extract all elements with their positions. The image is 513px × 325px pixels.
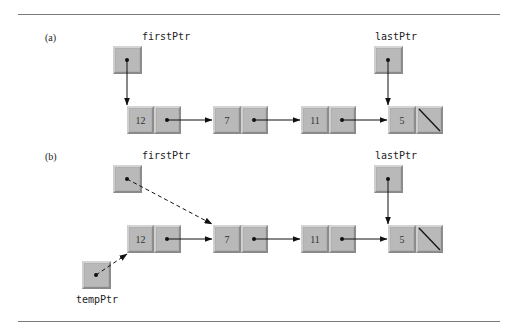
arrows-layer: [0, 0, 513, 325]
panel-b-arrows: [96, 179, 440, 275]
panel-b-dots: [94, 177, 390, 277]
panel-a-dots: [125, 58, 390, 122]
panel-a-arrows: [127, 60, 440, 131]
